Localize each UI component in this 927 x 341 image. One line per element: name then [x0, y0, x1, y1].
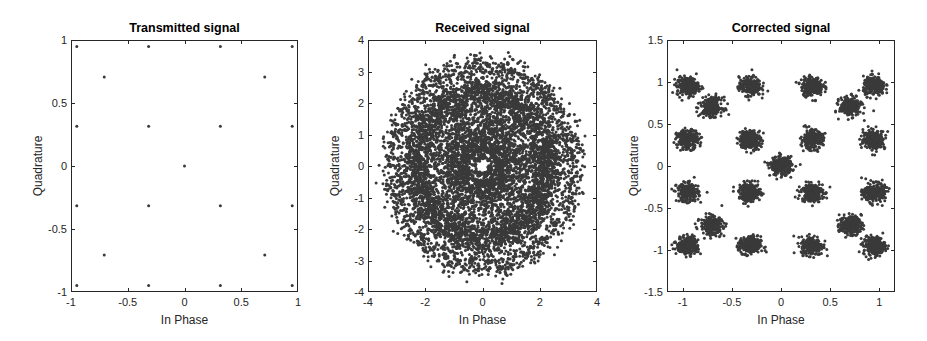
x-axis-label: In Phase — [459, 313, 506, 327]
y-tick-label: 2 — [358, 97, 364, 109]
y-tick-label: -1.5 — [644, 286, 663, 298]
y-tick-label: 0 — [657, 160, 663, 172]
plot-title: Transmitted signal — [129, 21, 239, 35]
y-tick-label: -1 — [57, 286, 67, 298]
x-tick-label: -4 — [363, 296, 373, 308]
y-tick-label: -1 — [653, 244, 663, 256]
x-tick-label: 0 — [479, 296, 485, 308]
y-tick-label: -1 — [354, 192, 364, 204]
scatter-plot-area — [72, 41, 297, 291]
y-tick-label: 0.5 — [52, 97, 67, 109]
x-tick-label: -1 — [678, 296, 688, 308]
x-tick-label: 0 — [778, 296, 784, 308]
x-tick-label: -0.5 — [722, 296, 741, 308]
corrected-signal-axes — [667, 40, 895, 292]
scatter-plot-area — [668, 41, 894, 291]
y-axis-label: Quadrature — [31, 136, 45, 197]
plot-title: Corrected signal — [732, 21, 831, 35]
y-tick-label: 1 — [61, 34, 67, 46]
x-axis-label: In Phase — [757, 313, 804, 327]
y-axis-label: Quadrature — [328, 136, 342, 197]
x-tick-label: 0 — [181, 296, 187, 308]
y-tick-label: -0.5 — [48, 223, 67, 235]
y-axis-label: Quadrature — [627, 136, 641, 197]
x-tick-label: 0.5 — [822, 296, 837, 308]
x-tick-label: -1 — [66, 296, 76, 308]
y-tick-label: -0.5 — [644, 202, 663, 214]
y-tick-label: -4 — [354, 286, 364, 298]
y-tick-label: -3 — [354, 255, 364, 267]
x-tick-label: -2 — [420, 296, 430, 308]
y-tick-label: 1.5 — [648, 34, 663, 46]
x-tick-label: -0.5 — [118, 296, 137, 308]
y-tick-label: -2 — [354, 223, 364, 235]
transmitted-signal-axes — [71, 40, 298, 292]
y-tick-label: 0.5 — [648, 118, 663, 130]
y-tick-label: 0 — [358, 160, 364, 172]
scatter-plot-area — [369, 41, 596, 291]
x-tick-label: 1 — [295, 296, 301, 308]
x-tick-label: 0.5 — [234, 296, 249, 308]
y-tick-label: 4 — [358, 34, 364, 46]
received-signal-axes — [368, 40, 597, 292]
y-tick-label: 1 — [657, 76, 663, 88]
x-tick-label: 1 — [876, 296, 882, 308]
x-axis-label: In Phase — [161, 313, 208, 327]
y-tick-label: 1 — [358, 129, 364, 141]
x-tick-label: 4 — [594, 296, 600, 308]
x-tick-label: 2 — [537, 296, 543, 308]
y-tick-label: 3 — [358, 66, 364, 78]
y-tick-label: 0 — [61, 160, 67, 172]
plot-title: Received signal — [435, 21, 530, 35]
